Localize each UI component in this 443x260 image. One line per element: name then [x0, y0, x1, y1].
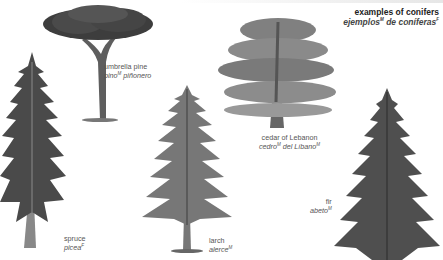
- label-fir: fir abetoM: [310, 197, 332, 215]
- label-cedar-of-lebanon: cedar of Lebanon cedroM del LíbanoM: [259, 133, 320, 151]
- cedar-of-lebanon-illustration: [218, 10, 338, 130]
- fir-illustration: [332, 88, 442, 260]
- label-larch: larch alerceM: [209, 236, 232, 254]
- page-title: examples of conifers ejemplosM de conífe…: [343, 7, 439, 27]
- title-english: examples of conifers: [343, 7, 439, 17]
- top-divider-line: [180, 0, 443, 3]
- label-umbrella-pine: umbrella pine pinoM piñonero: [104, 62, 151, 80]
- title-spanish: ejemplosM de coníferasF: [343, 17, 439, 27]
- spruce-illustration: [0, 52, 66, 250]
- label-spruce: spruce piceaF: [64, 234, 86, 252]
